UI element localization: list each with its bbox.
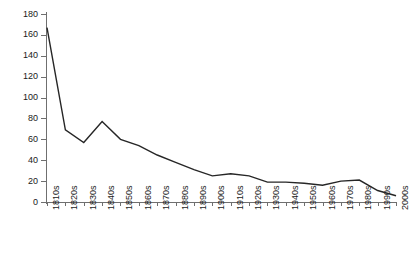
series-line-primary	[47, 28, 396, 196]
